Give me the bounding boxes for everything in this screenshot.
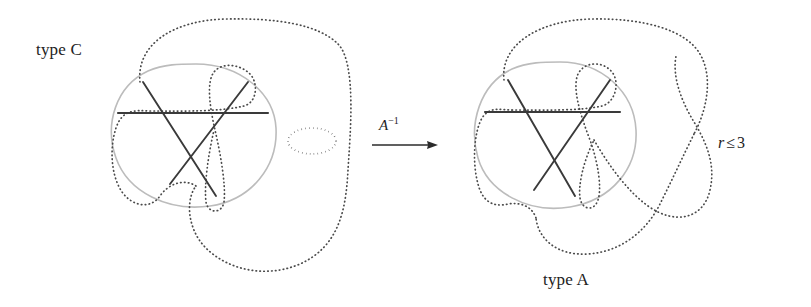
left-diagram-group bbox=[111, 19, 350, 271]
right-diagram-group bbox=[475, 19, 712, 254]
right-dotted-curve-hairpin bbox=[512, 64, 616, 208]
figure-canvas: type C type A A−1 r≤3 bbox=[0, 0, 811, 307]
arrow-label-base: A bbox=[379, 117, 388, 133]
left-small-loop bbox=[288, 128, 336, 154]
arrow-label: A−1 bbox=[379, 115, 399, 134]
right-diagram-label: type A bbox=[543, 270, 589, 290]
left-solid-blob-curve bbox=[111, 64, 276, 207]
right-solid-blob-curve bbox=[475, 62, 637, 208]
left-dotted-curve-inner-pocket bbox=[112, 111, 196, 205]
condition-operator: ≤ bbox=[724, 134, 737, 151]
arrow-head-icon bbox=[427, 141, 438, 149]
condition-value: 3 bbox=[737, 134, 745, 151]
knot-diagram-svg bbox=[0, 0, 811, 307]
left-diagram-label: type C bbox=[36, 40, 82, 60]
condition-label: r≤3 bbox=[718, 134, 745, 152]
transform-arrow-group bbox=[372, 141, 438, 149]
left-dotted-curve-outer bbox=[140, 19, 351, 271]
right-dotted-curve-inner-pocket bbox=[475, 109, 536, 218]
arrow-label-exponent: −1 bbox=[388, 115, 399, 126]
